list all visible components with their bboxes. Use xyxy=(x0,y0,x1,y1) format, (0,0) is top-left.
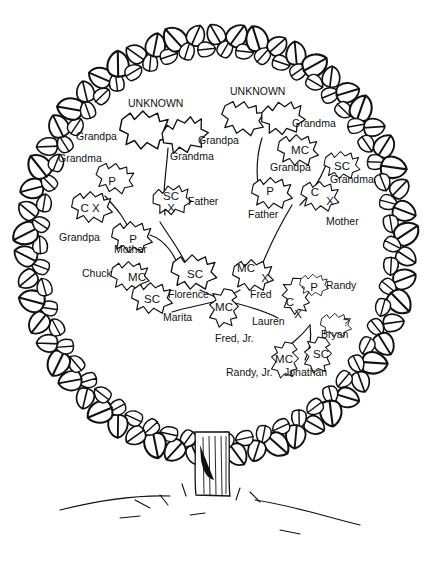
code-p-randy: P xyxy=(310,281,318,293)
code-p-grandma-left: P xyxy=(108,175,116,187)
code-sc-grandma-right: SC xyxy=(334,160,350,172)
label-mother-1: Mother xyxy=(114,243,147,255)
code-x-lauren: X xyxy=(294,308,302,320)
label-jonathan: Jonathan xyxy=(284,366,327,378)
code-p-father-right: P xyxy=(266,185,274,197)
code-x-father-left: X xyxy=(167,202,175,214)
label-grandpa-1: Grandpa xyxy=(76,130,117,142)
tree-trunk xyxy=(195,432,230,496)
code-mc-chuck: MC xyxy=(128,271,146,283)
leaf-unknown-right-a xyxy=(219,98,267,137)
label-father-1: Father xyxy=(188,195,219,207)
label-lauren: Lauren xyxy=(252,315,285,327)
family-tree-illustration: P C X P SC X SC MC SC P C X MC X MC SC M… xyxy=(0,0,432,568)
wreath-leaf xyxy=(36,137,59,155)
label-grandma-3: Grandma xyxy=(292,117,336,129)
code-c-mother-right: C xyxy=(311,186,319,198)
wreath-leaf xyxy=(362,118,385,137)
code-mc-fred: MC xyxy=(237,262,255,274)
label-grandma-1: Grandma xyxy=(58,152,102,164)
wreath-leaf xyxy=(36,334,59,352)
label-grandma-4: Grandma xyxy=(330,173,374,185)
label-bryan: Bryan xyxy=(321,328,349,340)
wreath xyxy=(9,20,424,473)
name-labels: UNKNOWN UNKNOWN Grandpa Grandma Grandpa … xyxy=(58,85,374,378)
label-florence: Florence xyxy=(168,288,209,300)
leaf-unknown-left-a xyxy=(120,111,170,149)
label-grandma-2: Grandma xyxy=(170,150,214,162)
label-fred: Fred xyxy=(250,288,272,300)
code-mc-grandpa-right: MC xyxy=(291,144,309,156)
label-grandpa-3: Grandpa xyxy=(59,231,100,243)
code-sc-jonathan: SC xyxy=(313,348,329,360)
code-sc-florence: SC xyxy=(187,268,203,280)
label-grandpa-2: Grandpa xyxy=(198,134,239,146)
label-unknown-left: UNKNOWN xyxy=(128,97,183,109)
code-mc-fred-jr: MC xyxy=(215,301,233,313)
code-mc-randy-jr: MC xyxy=(275,353,293,365)
label-randy-jr: Randy, Jr. xyxy=(226,366,273,378)
label-mother-2: Mother xyxy=(326,215,359,227)
code-x-fred: X xyxy=(261,272,269,284)
label-randy: Randy xyxy=(326,279,357,291)
code-sc-marita: SC xyxy=(144,293,160,305)
label-grandpa-4: Grandpa xyxy=(270,161,311,173)
code-cx-grandpa-left: C X xyxy=(80,202,100,214)
label-chuck: Chuck xyxy=(82,267,113,279)
label-father-2: Father xyxy=(248,208,279,220)
label-marita: Marita xyxy=(163,311,192,323)
code-sc-father-left: SC xyxy=(163,190,179,202)
code-q-bryan: ? xyxy=(343,316,349,328)
label-fred-jr: Fred, Jr. xyxy=(215,332,254,344)
code-c-lauren: C xyxy=(286,296,294,308)
code-x-mother-right: X xyxy=(326,195,334,207)
label-unknown-right: UNKNOWN xyxy=(230,85,285,97)
